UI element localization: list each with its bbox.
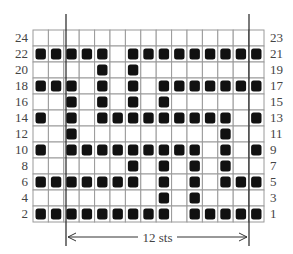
chart-cell <box>79 110 94 126</box>
chart-cell <box>33 190 48 206</box>
chart-cell <box>141 158 156 174</box>
stitch-filled <box>220 129 230 140</box>
chart-cell <box>48 110 63 126</box>
stitch-filled <box>97 209 107 220</box>
chart-cell <box>187 126 202 142</box>
stitch-filled <box>190 177 200 188</box>
chart-cell <box>233 62 248 78</box>
stitch-filled <box>66 209 76 220</box>
stitch-filled <box>36 81 46 92</box>
stitch-filled <box>128 65 138 76</box>
stitch-filled <box>113 145 123 156</box>
stitch-filled <box>159 209 169 220</box>
chart-cell <box>233 110 248 126</box>
stitch-filled <box>159 145 169 156</box>
chart-cell <box>79 126 94 142</box>
stitch-filled <box>159 81 169 92</box>
chart-cell <box>48 94 63 110</box>
stitch-filled <box>36 177 46 188</box>
stitch-filled <box>205 49 215 60</box>
chart-cell <box>95 190 110 206</box>
chart-cell <box>249 30 264 46</box>
chart-cell <box>110 30 125 46</box>
stitch-filled <box>82 209 92 220</box>
chart-cell <box>187 30 202 46</box>
row-label: 10 <box>15 142 28 157</box>
chart-cell <box>79 158 94 174</box>
stitch-filled <box>251 177 261 188</box>
row-label: 17 <box>270 78 284 93</box>
chart-cell <box>95 158 110 174</box>
stitch-filled <box>190 145 200 156</box>
stitch-filled <box>159 49 169 60</box>
chart-cell <box>172 174 187 190</box>
stitch-filled <box>97 113 107 124</box>
chart-cell <box>172 94 187 110</box>
stitch-filled <box>66 97 76 108</box>
chart-cell <box>141 62 156 78</box>
stitch-filled <box>174 113 184 124</box>
stitch-filled <box>128 49 138 60</box>
stitch-filled <box>143 49 153 60</box>
repeat-arrow: 12 sts <box>68 230 247 245</box>
stitch-filled <box>190 161 200 172</box>
stitch-filled <box>220 49 230 60</box>
row-label: 21 <box>270 46 283 61</box>
stitch-filled <box>51 177 61 188</box>
chart-cell <box>95 30 110 46</box>
stitch-filled <box>97 145 107 156</box>
row-label: 2 <box>22 206 29 221</box>
stitch-filled <box>128 113 138 124</box>
row-label: 11 <box>270 126 283 141</box>
stitch-filled <box>174 49 184 60</box>
chart-cell <box>249 62 264 78</box>
chart-cell <box>156 126 171 142</box>
chart-cell <box>141 30 156 46</box>
chart-cell <box>202 190 217 206</box>
stitch-filled <box>236 49 246 60</box>
row-label: 8 <box>22 158 29 173</box>
stitch-filled <box>174 81 184 92</box>
chart-cell <box>125 126 140 142</box>
row-label: 15 <box>270 94 283 109</box>
stitch-filled <box>128 177 138 188</box>
chart-cell <box>249 126 264 142</box>
stitch-filled <box>251 81 261 92</box>
stitch-filled <box>66 177 76 188</box>
stitch-filled <box>220 209 230 220</box>
chart-cell <box>218 94 233 110</box>
chart-cell <box>202 62 217 78</box>
stitch-filled <box>97 49 107 60</box>
chart-cell <box>187 94 202 110</box>
row-label: 4 <box>22 190 29 205</box>
stitch-filled <box>159 113 169 124</box>
stitch-filled <box>143 145 153 156</box>
chart-cell <box>172 206 187 222</box>
row-label: 22 <box>15 46 28 61</box>
row-label: 1 <box>270 206 277 221</box>
chart-cell <box>156 62 171 78</box>
stitch-filled <box>159 193 169 204</box>
chart-cell <box>202 94 217 110</box>
stitch-filled <box>66 113 76 124</box>
chart-cell <box>141 190 156 206</box>
row-labels-left: 24222018161412108642 <box>15 30 29 221</box>
stitch-filled <box>205 209 215 220</box>
chart-cell <box>141 78 156 94</box>
chart-cell <box>79 94 94 110</box>
chart-cell <box>233 30 248 46</box>
chart-cell <box>172 126 187 142</box>
row-label: 12 <box>15 126 28 141</box>
stitch-filled <box>159 177 169 188</box>
chart-cell <box>110 94 125 110</box>
stitch-filled <box>51 49 61 60</box>
stitch-filled <box>82 49 92 60</box>
stitch-filled <box>190 193 200 204</box>
row-label: 13 <box>270 110 283 125</box>
stitch-filled <box>36 209 46 220</box>
row-label: 6 <box>22 174 29 189</box>
chart-cell <box>33 62 48 78</box>
stitch-filled <box>205 113 215 124</box>
stitch-filled <box>251 49 261 60</box>
row-label: 9 <box>270 142 277 157</box>
